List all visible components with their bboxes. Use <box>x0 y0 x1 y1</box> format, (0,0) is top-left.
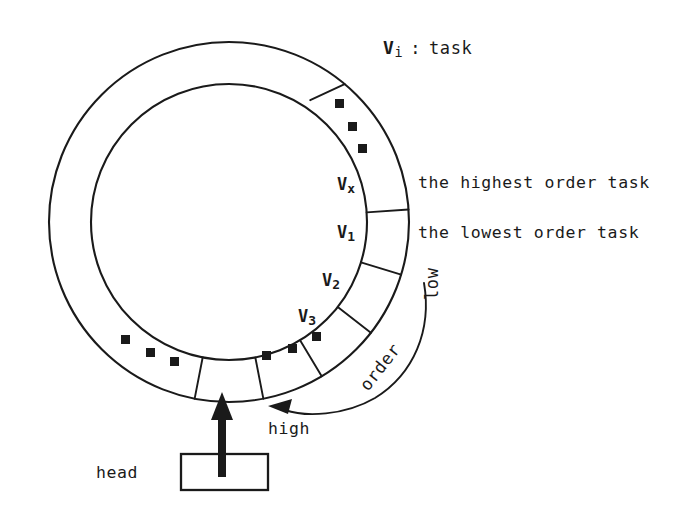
label-high: high <box>268 419 310 438</box>
svg-text:Vx: Vx <box>337 174 355 196</box>
ellipsis-dot <box>348 122 357 131</box>
ellipsis-dot <box>335 99 344 108</box>
ring-buffer-diagram: Vx V1 V2 V3 <box>0 0 690 507</box>
ring-inner-circle <box>91 84 367 360</box>
segment-label-v1: V1 <box>337 222 355 244</box>
legend-separator: : <box>410 38 421 58</box>
segment-label-vx: Vx <box>337 174 355 196</box>
segment-divider-v2-v3 <box>338 307 371 333</box>
svg-text:V3: V3 <box>298 306 316 328</box>
segment-divider-v3-bottom <box>300 340 322 376</box>
ellipsis-dot <box>121 335 130 344</box>
ellipsis-dot <box>146 348 155 357</box>
diagram-canvas: Vx V1 V2 V3 <box>0 0 690 507</box>
svg-text:V1: V1 <box>337 222 355 244</box>
ellipsis-dots-bottom-right <box>262 332 321 360</box>
segment-label-v1-sub: 1 <box>347 229 355 244</box>
legend-meaning: task <box>429 38 472 58</box>
ellipsis-dots-bottom-left <box>121 335 179 366</box>
order-direction-arrowhead <box>268 399 292 414</box>
head-arrow-shaft <box>218 412 226 477</box>
segment-divider-headslot-right <box>255 357 263 398</box>
segment-label-v3-sub: 3 <box>308 313 316 328</box>
segment-label-v2-main: V <box>322 270 332 290</box>
ring-outer-circle <box>49 42 409 402</box>
svg-text:V2: V2 <box>322 270 340 292</box>
ellipsis-dots-upper-right <box>335 99 367 153</box>
segment-label-v2-sub: 2 <box>332 277 340 292</box>
label-head: head <box>96 463 138 482</box>
note-lowest-order-task: the lowest order task <box>418 223 639 242</box>
ellipsis-dot <box>312 332 321 341</box>
ellipsis-dot <box>358 144 367 153</box>
segment-label-v2: V2 <box>322 270 340 292</box>
ellipsis-dot <box>262 351 271 360</box>
segment-label-v3-main: V <box>298 306 308 326</box>
label-low: low <box>422 267 442 300</box>
ellipsis-dot <box>288 344 297 353</box>
segment-divider-vx-top <box>310 84 344 100</box>
legend-subscript: i <box>394 44 403 60</box>
segment-divider-vx-v1 <box>367 209 409 212</box>
segment-label-v1-main: V <box>337 222 347 242</box>
note-highest-order-task: the highest order task <box>418 173 650 192</box>
head-arrow-head <box>211 392 233 420</box>
segment-divider-v1-v2 <box>361 262 401 274</box>
segment-label-v3: V3 <box>298 306 316 328</box>
ellipsis-dot <box>170 357 179 366</box>
label-order: order <box>355 339 404 394</box>
segment-label-vx-main: V <box>337 174 347 194</box>
legend-symbol: V <box>383 37 394 58</box>
segment-divider-headslot-left <box>195 357 203 398</box>
legend-vi-task: Vi:task <box>383 37 472 60</box>
segment-label-vx-sub: x <box>347 181 355 196</box>
order-direction-arc <box>285 283 426 414</box>
